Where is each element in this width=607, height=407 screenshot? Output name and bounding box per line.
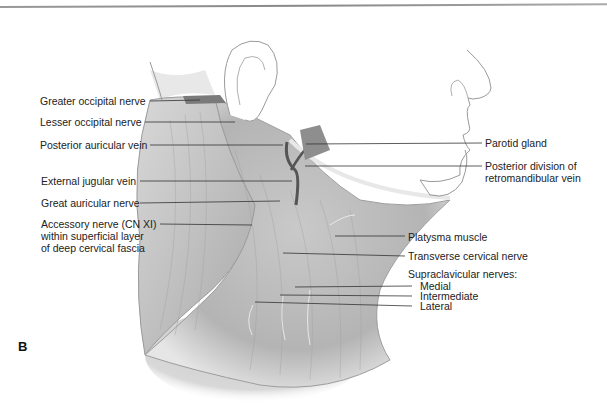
label-greater-occipital-nerve: Greater occipital nerve [40, 95, 146, 107]
face-profile [420, 50, 491, 196]
label-external-jugular-vein: External jugular vein [41, 175, 136, 187]
panel-label: B [18, 339, 27, 354]
label-accessory-line3: of deep cervical fascia [41, 242, 157, 254]
label-accessory-line1: Accessory nerve (CN XI) [41, 218, 157, 230]
label-lesser-occipital-nerve: Lesser occipital nerve [40, 116, 142, 128]
label-parotid-gland: Parotid gland [485, 137, 547, 149]
label-lateral: Lateral [420, 300, 452, 312]
label-platysma-muscle: Platysma muscle [408, 231, 487, 243]
label-accessory-line2: within superficial layer [41, 230, 157, 242]
ear [224, 41, 277, 121]
label-transverse-cervical-nerve: Transverse cervical nerve [408, 250, 528, 262]
label-posterior-division-retromandibular-vein: Posterior division of retromandibular ve… [485, 160, 581, 184]
label-retromandibular-line2: retromandibular vein [485, 172, 581, 184]
label-supraclavicular-nerves: Supraclavicular nerves: [408, 268, 517, 280]
occipital-window [183, 95, 226, 104]
parotid-gland [300, 125, 330, 160]
label-retromandibular-line1: Posterior division of [485, 160, 581, 172]
label-accessory-nerve: Accessory nerve (CN XI) within superfici… [41, 218, 157, 254]
label-posterior-auricular-vein: Posterior auricular vein [40, 139, 147, 151]
label-great-auricular-nerve: Great auricular nerve [41, 197, 140, 209]
